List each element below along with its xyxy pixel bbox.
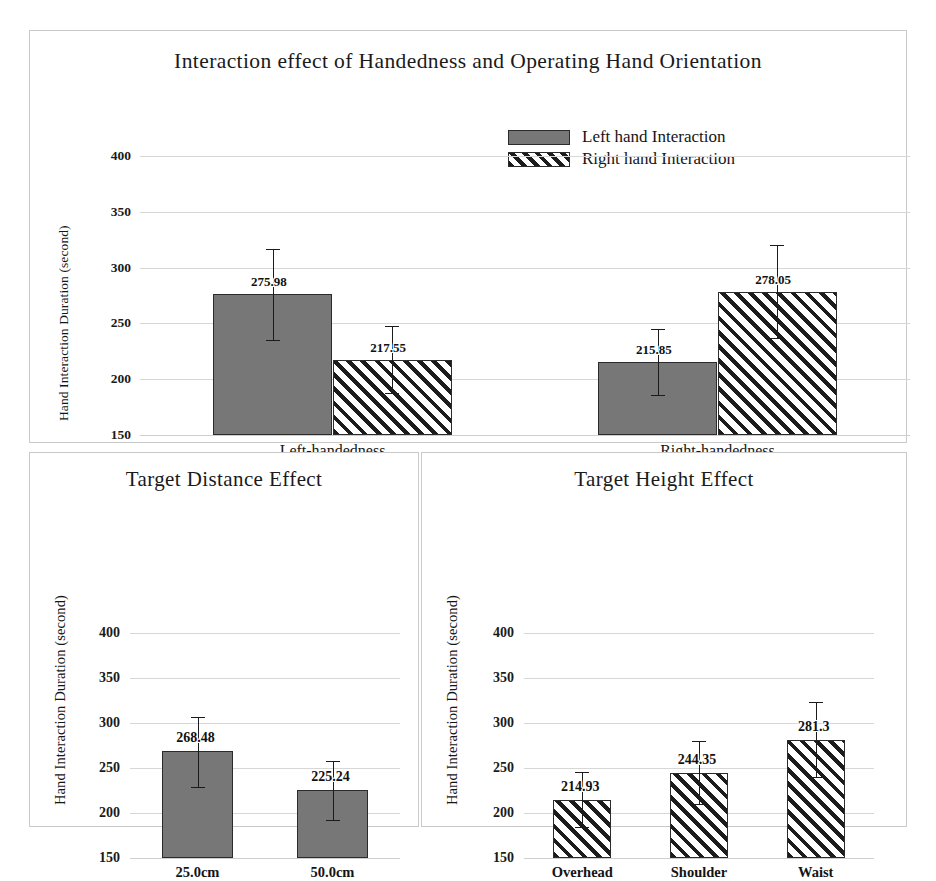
error-bar-cap (385, 393, 399, 394)
error-bar-cap (575, 772, 589, 773)
error-bar-cap (326, 761, 340, 762)
y-axis-label-top: Hand Interaction Duration (second) (56, 225, 72, 421)
plot-area-bottom-left: 15020025030035040025.0cm268.4850.0cm225.… (130, 633, 400, 858)
error-bar (658, 329, 659, 395)
y-axis-tick-label: 400 (99, 625, 120, 641)
error-bar-cap (266, 340, 280, 341)
x-axis-tick-label: Shoulder (671, 864, 727, 881)
y-axis-tick-label: 250 (99, 760, 120, 776)
bar-value-label: 225.24 (311, 769, 350, 785)
y-axis-tick-label: 200 (111, 371, 131, 387)
gridline (524, 678, 874, 679)
error-bar (816, 702, 817, 777)
error-bar-cap (809, 702, 823, 703)
error-bar-cap (191, 717, 205, 718)
x-axis-tick-label: Overhead (552, 864, 613, 881)
y-axis-tick-label: 250 (493, 760, 514, 776)
y-axis-tick-label: 200 (99, 805, 120, 821)
error-bar-cap (651, 329, 665, 330)
error-bar-cap (575, 827, 589, 828)
chart-title-target-height: Target Height Effect (422, 467, 906, 492)
y-axis-tick-label: 150 (111, 427, 131, 443)
page-title: Interaction effect of Handedness and Ope… (30, 49, 906, 74)
y-axis-tick-label: 150 (493, 850, 514, 866)
bar-value-label: 244.35 (678, 752, 717, 768)
y-axis-label-bottom-left: Hand Interaction Duration (second) (52, 595, 69, 805)
gridline (140, 268, 910, 269)
gridline (140, 156, 910, 157)
y-axis-label-bottom-right: Hand Interaction Duration (second) (444, 595, 461, 805)
y-axis-tick-label: 250 (111, 315, 131, 331)
x-axis-tick-label: Waist (798, 864, 833, 881)
error-bar (392, 326, 393, 393)
error-bar-cap (770, 338, 784, 339)
bar-value-label: 215.85 (636, 342, 672, 358)
bar-value-label: 275.98 (251, 274, 287, 290)
y-axis-tick-label: 300 (493, 715, 514, 731)
x-axis-tick-label: 25.0cm (176, 864, 220, 881)
chart-title-target-distance: Target Distance Effect (30, 467, 418, 492)
error-bar-cap (326, 820, 340, 821)
y-axis-tick-label: 350 (99, 670, 120, 686)
error-bar-cap (191, 787, 205, 788)
y-axis-tick-label: 300 (99, 715, 120, 731)
y-axis-tick-label: 300 (111, 260, 131, 276)
error-bar-cap (651, 395, 665, 396)
legend-label-left-hand: Left hand Interaction (582, 127, 726, 147)
gridline (524, 858, 874, 859)
y-axis-tick-label: 400 (493, 625, 514, 641)
gridline (130, 678, 400, 679)
gridline (130, 633, 400, 634)
gridline (130, 723, 400, 724)
gridline (524, 633, 874, 634)
bar-value-label: 214.93 (561, 779, 600, 795)
panel-interaction-effect: Interaction effect of Handedness and Ope… (29, 30, 907, 443)
legend-item-left-hand: Left hand Interaction (508, 127, 735, 147)
error-bar-cap (809, 777, 823, 778)
error-bar (777, 245, 778, 338)
bar-value-label: 268.48 (176, 730, 215, 746)
error-bar-cap (770, 245, 784, 246)
y-axis-tick-label: 150 (99, 850, 120, 866)
y-axis-tick-label: 400 (111, 148, 131, 164)
error-bar (273, 249, 274, 341)
error-bar (699, 741, 700, 804)
error-bar-cap (385, 326, 399, 327)
y-axis-tick-label: 350 (111, 204, 131, 220)
gridline (140, 435, 910, 436)
error-bar (198, 717, 199, 787)
y-axis-tick-label: 350 (493, 670, 514, 686)
panel-target-distance-effect: Target Distance Effect Hand Interaction … (29, 452, 419, 827)
bar-value-label: 278.05 (755, 272, 791, 288)
x-axis-tick-label: 50.0cm (311, 864, 355, 881)
bar-value-label: 217.55 (370, 340, 406, 356)
plot-area-bottom-right: 150200250300350400Overhead214.93Shoulder… (524, 633, 874, 858)
plot-area-top: 150200250300350400Left-handedness275.982… (140, 156, 910, 435)
y-axis-tick-label: 200 (493, 805, 514, 821)
error-bar-cap (266, 249, 280, 250)
legend-swatch-solid-icon (508, 130, 570, 145)
gridline (140, 212, 910, 213)
bar-value-label: 281.3 (798, 719, 830, 735)
panel-target-height-effect: Target Height Effect Hand Interaction Du… (421, 452, 907, 827)
error-bar-cap (692, 804, 706, 805)
error-bar-cap (692, 741, 706, 742)
gridline (130, 858, 400, 859)
